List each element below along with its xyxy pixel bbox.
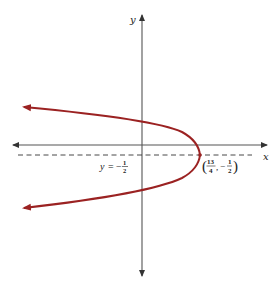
svg-text:1: 1 [123,159,126,166]
svg-text:−: − [116,161,122,172]
vertex-point [198,153,202,157]
svg-text:): ) [233,158,238,175]
x-axis-label: x [263,151,269,162]
svg-text:2: 2 [123,167,126,174]
parabola-graph: x y y = − 1 2 ( 13 4 , − 1 2 [0,0,275,289]
svg-text:2: 2 [228,167,232,175]
svg-text:13: 13 [207,158,215,166]
svg-text:−: − [220,161,225,171]
svg-text:4: 4 [209,167,213,175]
svg-text:,: , [216,162,218,172]
vertex-label: ( 13 4 , − 1 2 ) [202,158,238,175]
svg-text:y: y [99,161,105,172]
svg-text:=: = [108,161,114,172]
parabola-upper-arm [24,107,200,155]
axis-of-symmetry-label: y = − 1 2 [99,159,128,174]
y-axis-label: y [129,14,136,25]
coordinate-plane: x y y = − 1 2 ( 13 4 , − 1 2 [0,0,275,289]
svg-text:1: 1 [228,158,232,166]
